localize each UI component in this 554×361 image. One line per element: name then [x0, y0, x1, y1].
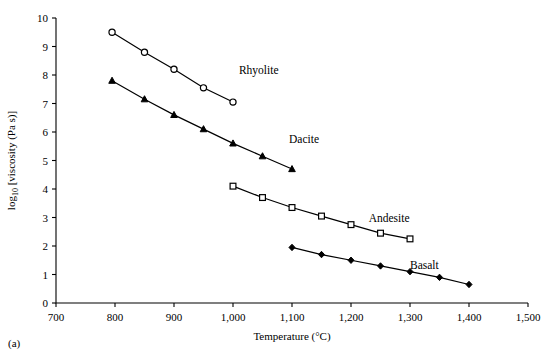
data-point-marker: [141, 49, 147, 55]
data-point-marker: [348, 222, 354, 228]
chart-canvas: 7008009001,0001,1001,2001,3001,4001,5000…: [0, 0, 554, 361]
data-point-marker: [407, 236, 413, 242]
data-point-marker: [171, 111, 178, 117]
data-point-marker: [466, 281, 472, 287]
series-label-dacite: Dacite: [289, 133, 319, 145]
x-tick-label: 1,100: [280, 311, 305, 323]
x-tick-label: 900: [166, 311, 183, 323]
series-rhyolite: [109, 29, 236, 105]
viscosity-temperature-figure: 7008009001,0001,1001,2001,3001,4001,5000…: [0, 0, 554, 361]
x-tick-label: 800: [107, 311, 124, 323]
data-point-marker: [378, 263, 384, 269]
data-point-marker: [437, 274, 443, 280]
x-tick-label: 1,000: [221, 311, 246, 323]
panel-caption: (a): [8, 337, 21, 350]
axis-lines: [56, 18, 528, 303]
y-tick-label: 7: [43, 98, 49, 110]
x-tick-label: 1,500: [516, 311, 541, 323]
data-point-marker: [260, 195, 266, 201]
y-tick-label: 9: [43, 41, 49, 53]
data-point-marker: [141, 96, 148, 102]
data-point-marker: [289, 244, 295, 250]
y-axis-title: log10 [viscosity (Pa s)]: [5, 111, 20, 210]
y-tick-label: 6: [43, 126, 49, 138]
data-point-marker: [348, 257, 354, 263]
data-point-marker: [171, 66, 177, 72]
data-point-marker: [109, 77, 116, 83]
x-tick-label: 1,400: [457, 311, 482, 323]
series-label-rhyolite: Rhyolite: [239, 64, 279, 77]
y-tick-label: 10: [37, 12, 49, 24]
series-dacite: [109, 77, 296, 171]
data-point-marker: [289, 205, 295, 211]
x-tick-label: 700: [48, 311, 65, 323]
y-tick-label: 5: [43, 155, 49, 167]
y-tick-label: 1: [43, 269, 49, 281]
series-basalt: [289, 244, 472, 287]
data-point-marker: [200, 85, 206, 91]
series-label-andesite: Andesite: [369, 212, 410, 224]
y-tick-label: 2: [43, 240, 49, 252]
y-tick-label: 8: [43, 69, 49, 81]
data-point-marker: [109, 29, 115, 35]
y-tick-label: 3: [43, 212, 49, 224]
series-layer: [109, 29, 472, 288]
data-point-marker: [230, 99, 236, 105]
data-point-marker: [378, 230, 384, 236]
x-tick-label: 1,200: [339, 311, 364, 323]
y-tick-label: 4: [43, 183, 49, 195]
data-point-marker: [319, 251, 325, 257]
y-tick-label: 0: [43, 297, 49, 309]
data-point-marker: [230, 183, 236, 189]
x-axis-title: Temperature (°C): [253, 330, 331, 343]
series-label-basalt: Basalt: [410, 259, 440, 271]
series-line: [112, 81, 292, 169]
data-point-marker: [319, 213, 325, 219]
x-tick-label: 1,300: [398, 311, 423, 323]
